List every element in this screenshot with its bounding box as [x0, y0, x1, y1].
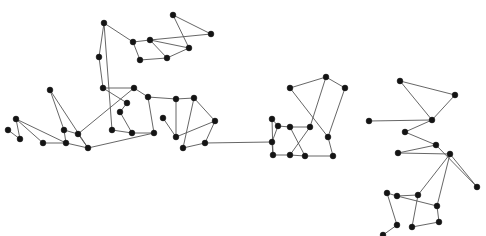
graph-node[interactable]: [202, 140, 208, 146]
graph-node[interactable]: [325, 134, 331, 140]
graph-node[interactable]: [342, 85, 348, 91]
graph-node[interactable]: [151, 130, 157, 136]
graph-node[interactable]: [100, 85, 106, 91]
graph-node[interactable]: [323, 74, 329, 80]
graph-node[interactable]: [160, 115, 166, 121]
canvas-background: [0, 0, 486, 236]
graph-node[interactable]: [145, 94, 151, 100]
graph-node[interactable]: [270, 152, 276, 158]
graph-node[interactable]: [302, 153, 308, 159]
graph-node[interactable]: [394, 193, 400, 199]
graph-node[interactable]: [180, 145, 186, 151]
graph-node[interactable]: [40, 140, 46, 146]
graph-node[interactable]: [397, 78, 403, 84]
graph-node[interactable]: [137, 57, 143, 63]
graph-node[interactable]: [429, 117, 435, 123]
graph-node[interactable]: [269, 116, 275, 122]
graph-node[interactable]: [131, 85, 137, 91]
graph-node[interactable]: [208, 31, 214, 37]
graph-node[interactable]: [147, 37, 153, 43]
graph-node[interactable]: [436, 219, 442, 225]
graph-node[interactable]: [109, 127, 115, 133]
graph-node[interactable]: [173, 134, 179, 140]
node-link-diagram: [0, 0, 486, 236]
graph-node[interactable]: [395, 150, 401, 156]
graph-node[interactable]: [394, 222, 400, 228]
graph-node[interactable]: [275, 123, 281, 129]
graph-node[interactable]: [47, 87, 53, 93]
graph-node[interactable]: [212, 118, 218, 124]
graph-node[interactable]: [287, 85, 293, 91]
graph-node[interactable]: [380, 232, 386, 236]
graph-node[interactable]: [170, 12, 176, 18]
graph-node[interactable]: [17, 136, 23, 142]
graph-node[interactable]: [173, 96, 179, 102]
graph-node[interactable]: [307, 124, 313, 130]
graph-node[interactable]: [447, 151, 453, 157]
graph-node[interactable]: [129, 130, 135, 136]
graph-node[interactable]: [124, 100, 130, 106]
graph-node[interactable]: [474, 184, 480, 190]
graph-node[interactable]: [63, 140, 69, 146]
graph-node[interactable]: [130, 39, 136, 45]
graph-node[interactable]: [384, 190, 390, 196]
graph-node[interactable]: [287, 124, 293, 130]
graph-node[interactable]: [269, 139, 275, 145]
graph-canvas: [0, 0, 486, 236]
graph-node[interactable]: [101, 20, 107, 26]
graph-node[interactable]: [96, 54, 102, 60]
graph-node[interactable]: [434, 203, 440, 209]
graph-node[interactable]: [61, 127, 67, 133]
graph-node[interactable]: [13, 116, 19, 122]
graph-node[interactable]: [330, 153, 336, 159]
graph-node[interactable]: [117, 109, 123, 115]
graph-node[interactable]: [402, 129, 408, 135]
graph-node[interactable]: [191, 95, 197, 101]
graph-node[interactable]: [452, 92, 458, 98]
graph-node[interactable]: [164, 55, 170, 61]
graph-node[interactable]: [5, 127, 11, 133]
graph-node[interactable]: [366, 118, 372, 124]
graph-node[interactable]: [186, 45, 192, 51]
graph-node[interactable]: [287, 152, 293, 158]
graph-node[interactable]: [85, 145, 91, 151]
graph-node[interactable]: [409, 224, 415, 230]
graph-node[interactable]: [75, 131, 81, 137]
graph-node[interactable]: [415, 192, 421, 198]
graph-node[interactable]: [433, 142, 439, 148]
